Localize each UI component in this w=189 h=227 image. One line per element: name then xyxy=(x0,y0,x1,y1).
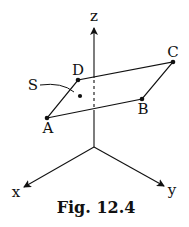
point-c-label: C xyxy=(167,43,178,61)
parallelogram-axes-diagram: z x y A B C D S Fig. 12.4 xyxy=(0,0,189,227)
parallelogram-abcd xyxy=(47,62,173,118)
point-d-label: D xyxy=(72,61,84,79)
surface-label: S xyxy=(28,76,38,94)
figure-caption: Fig. 12.4 xyxy=(57,198,136,217)
point-b-label: B xyxy=(137,100,148,118)
x-axis xyxy=(24,147,94,187)
x-axis-label: x xyxy=(12,183,21,201)
surface-point-dot xyxy=(78,94,82,98)
y-axis xyxy=(94,147,164,186)
z-axis-label: z xyxy=(90,7,98,25)
point-a-label: A xyxy=(42,119,54,137)
y-axis-label: y xyxy=(167,181,177,199)
